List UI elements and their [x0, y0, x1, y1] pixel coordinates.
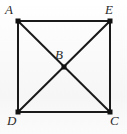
geometry-figure: A E C D B: [0, 0, 127, 134]
vertex-point-A: [16, 19, 21, 24]
vertex-label-a: A: [5, 3, 13, 16]
vertex-point-E: [108, 19, 113, 24]
vertex-label-d: D: [7, 114, 16, 127]
vertex-label-e: E: [105, 3, 113, 16]
vertex-label-b: B: [55, 48, 63, 61]
vertex-point-B: [62, 65, 67, 70]
vertex-label-c: C: [110, 114, 119, 127]
figure-canvas: [0, 0, 127, 134]
